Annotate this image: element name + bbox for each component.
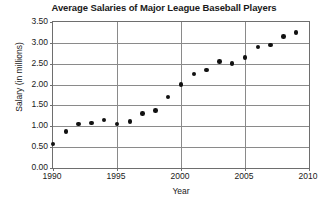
y-axis-tick-label: 3.00 <box>2 38 48 47</box>
gridline-vertical <box>117 22 118 168</box>
data-point <box>268 43 273 48</box>
data-point <box>294 30 299 35</box>
data-point <box>128 119 133 124</box>
data-point <box>217 59 222 64</box>
y-axis-tick-mark <box>50 43 53 44</box>
y-axis-tick-mark <box>50 105 53 106</box>
data-point <box>281 34 286 39</box>
data-point <box>179 82 184 87</box>
y-axis-tick-label: 1.00 <box>2 121 48 130</box>
x-axis-tick-label: 2005 <box>224 172 264 181</box>
chart-title: Average Salaries of Major League Basebal… <box>0 2 328 13</box>
data-point <box>166 95 171 100</box>
x-axis-tick-label: 1995 <box>96 172 136 181</box>
y-axis-tick-labels: 0.000.501.001.502.002.503.003.50 <box>0 21 48 169</box>
y-axis-tick-label: 2.50 <box>2 59 48 68</box>
data-point <box>243 55 248 60</box>
x-axis-tick-labels: 19901995200020052010 <box>52 172 310 184</box>
y-axis-tick-label: 1.50 <box>2 100 48 109</box>
plot-area <box>52 21 310 169</box>
y-axis-tick-mark <box>50 147 53 148</box>
y-axis-tick-label: 2.00 <box>2 80 48 89</box>
data-point <box>102 118 107 123</box>
y-axis-label: Salary (in millions) <box>14 22 24 132</box>
y-axis-tick-mark <box>50 22 53 23</box>
y-axis-tick-mark <box>50 85 53 86</box>
data-point <box>256 45 261 50</box>
y-axis-tick-label: 0.00 <box>2 163 48 172</box>
data-point <box>192 72 197 77</box>
y-axis-tick-mark <box>50 126 53 127</box>
gridline-vertical <box>181 22 182 168</box>
data-point <box>230 61 235 66</box>
y-axis-tick-label: 0.50 <box>2 142 48 151</box>
y-axis-tick-mark <box>50 64 53 65</box>
x-axis-label: Year <box>52 186 310 196</box>
chart-figure: Average Salaries of Major League Basebal… <box>0 0 328 207</box>
x-axis-tick-label: 2010 <box>288 172 328 181</box>
data-point <box>140 111 145 116</box>
y-axis-tick-label: 3.50 <box>2 17 48 26</box>
gridline-vertical <box>245 22 246 168</box>
data-point <box>51 142 56 147</box>
x-axis-tick-label: 1990 <box>32 172 72 181</box>
data-point <box>89 121 94 126</box>
x-axis-tick-label: 2000 <box>160 172 200 181</box>
data-point <box>153 108 158 113</box>
data-point <box>64 129 69 134</box>
data-point <box>204 68 209 73</box>
